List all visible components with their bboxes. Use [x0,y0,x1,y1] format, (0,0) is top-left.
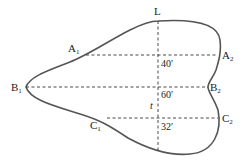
dimension-C: 32′ [161,122,173,132]
label-L: L [154,6,161,17]
label-A1: A1 [68,43,79,56]
label-B2: B2 [210,82,221,95]
label-C1: C1 [90,120,101,133]
label-A2: A2 [222,50,233,63]
shape-diagram [0,0,243,167]
dimension-B: 60′ [161,90,173,100]
dimension-A: 40′ [161,59,173,69]
label-t: t [150,101,153,111]
label-B1: B1 [11,82,22,95]
label-C2: C2 [222,113,233,126]
